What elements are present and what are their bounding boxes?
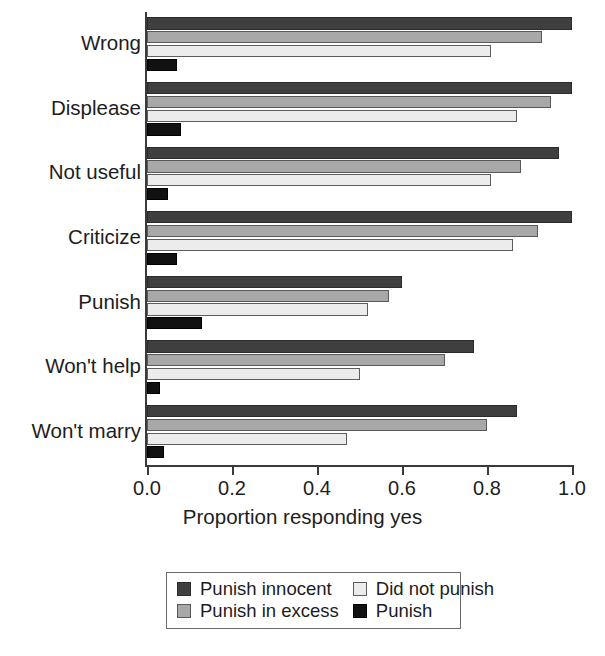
x-axis-tick (487, 467, 489, 475)
bar (147, 253, 177, 265)
plot-area (147, 12, 572, 464)
x-axis-tick-label: 0.4 (282, 477, 352, 500)
bar-group (147, 211, 572, 265)
bar (147, 110, 517, 122)
x-axis-tick-label: 0.6 (367, 477, 437, 500)
x-axis-tick (317, 467, 319, 475)
bar (147, 123, 181, 135)
bar (147, 31, 542, 43)
bar-chart-figure: WrongDispleaseNot usefulCriticizePunishW… (0, 0, 605, 656)
bar (147, 368, 360, 380)
bar (147, 290, 389, 302)
category-label: Wrong (0, 33, 141, 54)
bar-group (147, 340, 572, 394)
legend-entry: Punish innocent (177, 580, 339, 599)
bar (147, 446, 164, 458)
bar-group (147, 147, 572, 201)
x-axis-tick-label: 0.0 (112, 477, 182, 500)
legend-label: Punish innocent (200, 580, 332, 599)
bar (147, 147, 559, 159)
legend-label: Did not punish (376, 580, 494, 599)
bar-group (147, 82, 572, 136)
bar (147, 340, 474, 352)
legend-swatch-icon (177, 604, 191, 618)
bar (147, 239, 513, 251)
bar (147, 303, 368, 315)
legend-swatch-icon (353, 582, 367, 596)
bar-group (147, 405, 572, 459)
legend-swatch-icon (353, 604, 367, 618)
bar (147, 419, 487, 431)
bar (147, 188, 168, 200)
x-axis-tick-label: 0.2 (197, 477, 267, 500)
x-axis-tick (572, 467, 574, 475)
bar (147, 160, 521, 172)
chart-legend: Punish innocentDid not punishPunish in e… (166, 572, 461, 629)
bar (147, 45, 491, 57)
bar (147, 82, 572, 94)
x-axis-tick (402, 467, 404, 475)
bar (147, 59, 177, 71)
category-label: Won't marry (0, 421, 141, 442)
legend-swatch-icon (177, 582, 191, 596)
x-axis-tick (147, 467, 149, 475)
category-label: Punish (0, 292, 141, 313)
category-label: Won't help (0, 356, 141, 377)
bar (147, 276, 402, 288)
x-axis-tick-label: 1.0 (537, 477, 605, 500)
bar (147, 317, 202, 329)
bar (147, 405, 517, 417)
legend-entry: Punish in excess (177, 602, 339, 621)
bar-group (147, 276, 572, 330)
bar (147, 17, 572, 29)
category-label: Not useful (0, 162, 141, 183)
category-label: Criticize (0, 227, 141, 248)
bar (147, 354, 445, 366)
category-label: Displease (0, 98, 141, 119)
legend-label: Punish (376, 602, 433, 621)
bar (147, 211, 572, 223)
legend-entry: Did not punish (353, 580, 494, 599)
legend-label: Punish in excess (200, 602, 339, 621)
bar (147, 96, 551, 108)
x-axis-title: Proportion responding yes (0, 505, 605, 529)
bar-group (147, 17, 572, 71)
y-axis-line (145, 12, 147, 467)
bar (147, 433, 347, 445)
x-axis-tick (232, 467, 234, 475)
legend-entry: Punish (353, 602, 494, 621)
bar (147, 225, 538, 237)
x-axis-line (145, 465, 574, 467)
bar (147, 382, 160, 394)
x-axis-tick-label: 0.8 (452, 477, 522, 500)
category-axis-labels: WrongDispleaseNot usefulCriticizePunishW… (0, 12, 141, 464)
bar (147, 174, 491, 186)
